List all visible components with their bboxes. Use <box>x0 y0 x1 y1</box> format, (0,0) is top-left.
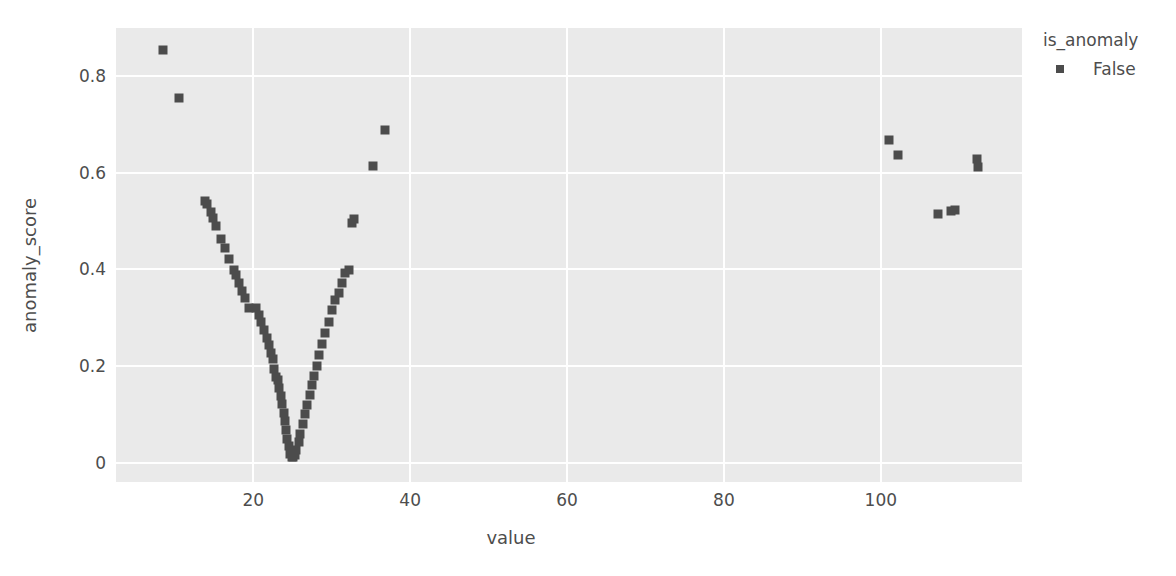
data-point <box>174 94 183 103</box>
data-point <box>327 306 336 315</box>
legend-item[interactable]: False <box>1043 59 1171 79</box>
data-point <box>894 150 903 159</box>
data-point <box>974 162 983 171</box>
data-point <box>292 446 301 455</box>
data-point <box>241 294 250 303</box>
data-point <box>221 244 230 253</box>
legend-title: is_anomaly <box>1043 30 1171 50</box>
data-point <box>217 234 226 243</box>
data-point <box>315 351 324 360</box>
data-point <box>318 340 327 349</box>
data-point <box>334 288 343 297</box>
data-point <box>202 199 211 208</box>
data-point <box>298 420 307 429</box>
y-axis-tick-label: 0.6 <box>79 163 106 183</box>
y-axis-tick-label: 0 <box>95 453 106 473</box>
data-point <box>312 362 321 371</box>
data-point <box>305 391 314 400</box>
data-point <box>268 354 277 363</box>
data-point <box>212 222 221 231</box>
data-point <box>301 410 310 419</box>
gridline-vertical <box>409 28 411 482</box>
data-point <box>294 438 303 447</box>
gridline-vertical <box>723 28 725 482</box>
square-marker-icon <box>1056 65 1064 73</box>
data-point <box>950 205 959 214</box>
gridline-vertical <box>880 28 882 482</box>
data-point <box>330 296 339 305</box>
data-point <box>308 381 317 390</box>
scatter-plot-figure: 00.20.40.60.8 20406080100 value anomaly_… <box>0 0 1176 576</box>
x-axis-tick-label: 20 <box>242 490 264 510</box>
data-point <box>310 371 319 380</box>
y-axis-tick-label: 0.4 <box>79 259 106 279</box>
x-axis-tick-label: 40 <box>399 490 421 510</box>
data-point <box>349 215 358 224</box>
data-point <box>321 329 330 338</box>
x-axis-tick-label: 60 <box>556 490 578 510</box>
data-point <box>159 45 168 54</box>
y-axis-tick-label: 0.2 <box>79 356 106 376</box>
data-point <box>296 429 305 438</box>
x-axis-tick-labels: 20406080100 <box>116 490 1022 514</box>
legend-entries: False <box>1043 59 1171 79</box>
x-axis-tick-label: 100 <box>865 490 897 510</box>
legend-swatch-container <box>1043 65 1077 73</box>
plot-area <box>116 28 1022 482</box>
data-point <box>303 400 312 409</box>
data-point <box>278 399 287 408</box>
data-point <box>224 255 233 264</box>
x-axis-label: value <box>0 527 1022 548</box>
gridline-vertical <box>566 28 568 482</box>
x-axis-tick-label: 80 <box>713 490 735 510</box>
data-point <box>381 126 390 135</box>
data-point <box>337 279 346 288</box>
legend-item-label: False <box>1093 59 1136 79</box>
y-axis-tick-label: 0.8 <box>79 66 106 86</box>
legend: is_anomaly False <box>1043 30 1171 79</box>
y-axis-tick-labels: 00.20.40.60.8 <box>60 28 106 482</box>
y-axis-label: anomaly_score <box>19 176 40 356</box>
gridline-vertical <box>252 28 254 482</box>
data-point <box>280 417 289 426</box>
data-point <box>369 162 378 171</box>
data-point <box>884 135 893 144</box>
data-point <box>282 425 291 434</box>
data-point <box>934 209 943 218</box>
data-point <box>344 266 353 275</box>
data-point <box>324 317 333 326</box>
